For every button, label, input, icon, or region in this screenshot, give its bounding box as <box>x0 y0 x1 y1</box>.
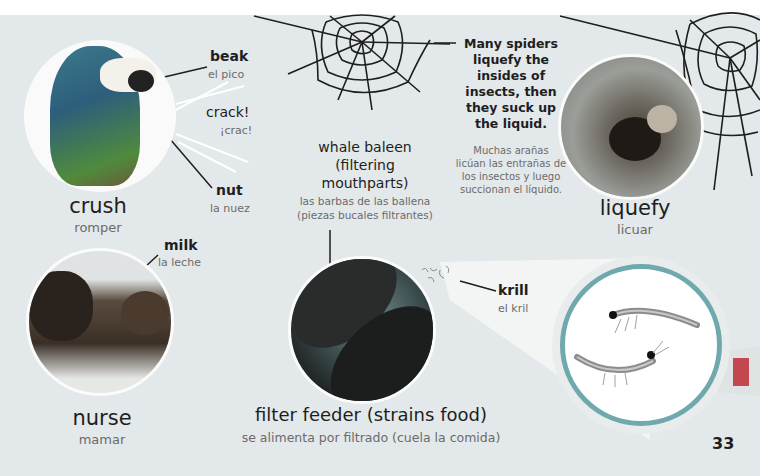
label-milk: milk <box>164 237 198 253</box>
spider-fact-es: Muchas arañas licúan las entrañas de los… <box>440 144 582 196</box>
label-beak-es: el pico <box>208 68 244 81</box>
word-liquefy: liquefy <box>580 196 690 220</box>
label-krill-es: el kril <box>498 302 528 315</box>
bear-photo <box>26 248 174 396</box>
magnifier-icon <box>552 256 730 434</box>
word-liquefy-es: licuar <box>580 222 690 237</box>
parrot-photo <box>24 40 176 192</box>
word-filter-feeder: filter feeder (strains food) <box>206 404 536 425</box>
label-baleen: whale baleen (filtering mouthparts) <box>300 138 430 192</box>
word-nurse-es: mamar <box>52 432 152 447</box>
word-crush: crush <box>48 194 148 218</box>
spider-photo <box>558 54 704 200</box>
page-number: 33 <box>712 434 734 453</box>
spider-fact-en: Many spiders liquefy the insides of inse… <box>446 36 576 132</box>
word-crush-es: romper <box>48 220 148 235</box>
label-krill: krill <box>498 282 529 298</box>
whale-photo <box>288 256 436 404</box>
label-beak: beak <box>210 48 248 64</box>
spider-web-center-icon <box>254 15 450 110</box>
label-baleen-es: las barbas de las ballena (piezas bucale… <box>282 194 448 222</box>
label-nut: nut <box>216 182 243 198</box>
krill-photo <box>560 264 722 426</box>
label-crack-es: ¡crac! <box>220 124 252 137</box>
word-nurse: nurse <box>52 406 152 430</box>
label-milk-es: la leche <box>158 256 201 269</box>
label-crack: crack! <box>206 104 249 120</box>
label-nut-es: la nuez <box>210 202 250 215</box>
krill-illustration <box>565 269 717 421</box>
word-filter-feeder-es: se alimenta por filtrado (cuela la comid… <box>196 430 546 445</box>
